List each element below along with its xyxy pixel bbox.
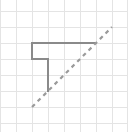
grid [0, 0, 128, 132]
diagonal-line [32, 27, 112, 107]
shapes [32, 27, 112, 107]
grid-canvas [0, 0, 128, 132]
